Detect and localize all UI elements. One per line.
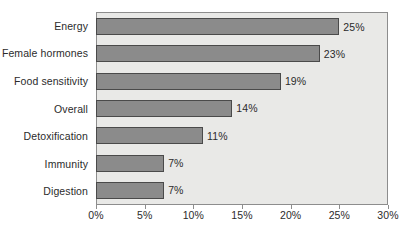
bar-value-label: 25% <box>343 21 364 33</box>
bar-value-label: 7% <box>168 157 183 169</box>
bars-layer: 25% 23% 19% 14% 11% 7% <box>97 13 387 204</box>
plot-area: 25% 23% 19% 14% 11% 7% <box>96 12 388 205</box>
bar-row: 23% <box>97 40 387 67</box>
bar-row: 7% <box>97 149 387 176</box>
category-axis-row: Immunity <box>0 150 93 178</box>
category-axis-row: Female hormones <box>0 40 93 68</box>
category-label: Detoxification <box>24 130 88 142</box>
category-axis: Energy Female hormones Food sensitivity … <box>0 12 93 205</box>
category-label: Immunity <box>45 158 88 170</box>
category-label: Energy <box>54 20 88 32</box>
category-label: Overall <box>54 103 88 115</box>
bar <box>96 182 164 199</box>
bar-row: 11% <box>97 122 387 149</box>
bar-value-label: 7% <box>168 184 183 196</box>
bar <box>96 18 339 35</box>
bar-value-label: 19% <box>285 75 306 87</box>
bar <box>96 45 320 62</box>
bar-row: 19% <box>97 68 387 95</box>
bar <box>96 127 203 144</box>
bar <box>96 100 232 117</box>
category-axis-row: Overall <box>0 95 93 123</box>
x-axis-tick-label: 30% <box>377 209 398 221</box>
bar <box>96 155 164 172</box>
x-axis-tick-label: 10% <box>183 209 204 221</box>
bar-row: 14% <box>97 95 387 122</box>
category-label: Female hormones <box>2 47 88 59</box>
bar-row: 25% <box>97 13 387 40</box>
category-axis-row: Energy <box>0 12 93 40</box>
x-axis-tick-label: 0% <box>88 209 103 221</box>
category-axis-row: Detoxification <box>0 122 93 150</box>
bar-value-label: 14% <box>236 102 257 114</box>
category-label: Digestion <box>43 185 88 197</box>
x-axis-tick-label: 5% <box>137 209 152 221</box>
bar-value-label: 11% <box>207 130 228 142</box>
category-axis-row: Digestion <box>0 177 93 205</box>
x-axis-tick-label: 25% <box>329 209 350 221</box>
category-label: Food sensitivity <box>14 75 88 87</box>
bar-row: 7% <box>97 177 387 204</box>
x-axis-labels: 0%5%10%15%20%25%30% <box>96 209 388 225</box>
bar-chart: Energy Female hormones Food sensitivity … <box>0 0 414 248</box>
category-axis-row: Food sensitivity <box>0 67 93 95</box>
bar-value-label: 23% <box>324 48 345 60</box>
x-axis-tick-label: 20% <box>280 209 301 221</box>
bar <box>96 73 281 90</box>
x-axis-tick-label: 15% <box>231 209 252 221</box>
